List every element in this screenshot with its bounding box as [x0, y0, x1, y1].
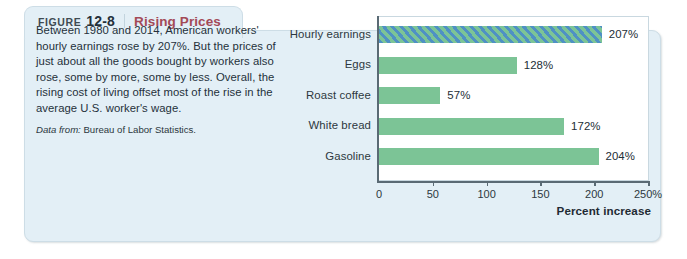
x-axis-tick-label: 0: [376, 188, 382, 200]
bar: [379, 26, 602, 43]
x-axis-tick: [487, 181, 489, 186]
x-axis-tick: [648, 181, 650, 186]
bar: [379, 57, 517, 74]
caption-source-prefix: Data from:: [36, 124, 81, 135]
category-label: Hourly earnings: [241, 28, 371, 40]
x-axis: [377, 181, 650, 183]
bar: [379, 118, 564, 135]
bar-chart: Hourly earnings207%Eggs128%Roast coffee5…: [273, 16, 651, 212]
x-axis-title: Percent increase: [557, 204, 651, 217]
x-axis-tick-label: 50: [427, 188, 439, 200]
bar: [379, 87, 440, 104]
bar: [379, 148, 599, 165]
figure-panel: FIGURE 12-8 Rising Prices Between 1980 a…: [24, 6, 663, 244]
x-axis-tick: [540, 181, 542, 186]
x-axis-tick: [594, 181, 596, 186]
bar-value-label: 57%: [447, 89, 470, 101]
bar-value-label: 172%: [571, 120, 601, 132]
x-axis-tick: [433, 181, 435, 186]
category-label: Eggs: [241, 58, 371, 70]
bar-value-label: 204%: [606, 150, 636, 162]
x-axis-tick-label: 150: [531, 188, 549, 200]
category-label: Roast coffee: [241, 89, 371, 101]
x-axis-tick-label: 200: [585, 188, 603, 200]
caption-source-text: Bureau of Labor Statistics.: [83, 124, 196, 135]
x-axis-tick-label: 250%: [634, 188, 662, 200]
bar-value-label: 207%: [609, 28, 639, 40]
bar-value-label: 128%: [524, 59, 554, 71]
category-label: Gasoline: [241, 150, 371, 162]
x-axis-tick-label: 100: [477, 188, 495, 200]
figure-screenshot: FIGURE 12-8 Rising Prices Between 1980 a…: [0, 0, 687, 259]
category-label: White bread: [241, 119, 371, 131]
